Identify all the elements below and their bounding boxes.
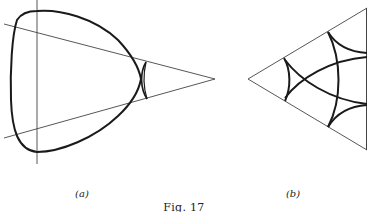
lower-tangent-line (4, 79, 215, 138)
figure-caption: Fig. 17 (163, 201, 204, 212)
figure-17-drawing (0, 0, 367, 212)
panel-a (4, 0, 215, 164)
panel-a-label: (a) (75, 188, 89, 199)
triangle-outline (248, 8, 367, 150)
panel-b-label: (b) (286, 188, 300, 199)
large-arc-vertical (328, 32, 339, 127)
panel-b (248, 8, 367, 150)
cusp-bottom-right (328, 105, 367, 127)
